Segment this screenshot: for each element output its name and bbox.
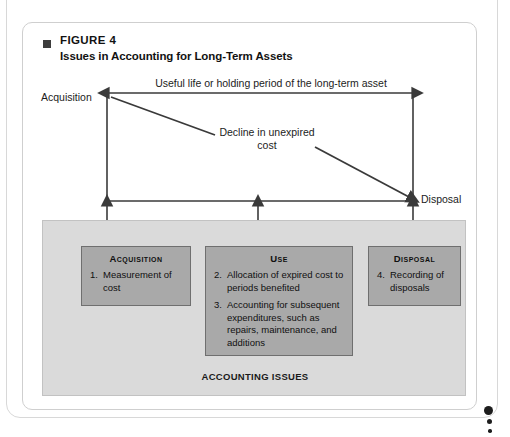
list-item: 2. Allocation of expired cost to periods… bbox=[214, 269, 346, 294]
timeline-diagram: Acquisition Disposal Useful life or hold… bbox=[23, 23, 478, 223]
issue-box-acquisition: Acquisition 1. Measurement of cost bbox=[81, 246, 191, 306]
list-item-text: Accounting for subsequent expenditures, … bbox=[227, 299, 340, 348]
issue-list-disposal: 4. Recording of disposals bbox=[369, 269, 460, 294]
useful-life-label: Useful life or holding period of the lon… bbox=[131, 77, 411, 89]
issue-box-use: Use 2. Allocation of expired cost to per… bbox=[205, 246, 353, 356]
issue-box-use-title: Use bbox=[206, 253, 352, 264]
issue-box-acquisition-title: Acquisition bbox=[82, 253, 190, 264]
list-item-text: Recording of disposals bbox=[390, 269, 444, 293]
decline-diagonal-arrow bbox=[315, 147, 409, 197]
issue-list-use: 2. Allocation of expired cost to periods… bbox=[206, 269, 352, 349]
decline-in-unexpired-cost-label: Decline in unexpired cost bbox=[219, 126, 315, 152]
list-item-text: Measurement of cost bbox=[103, 269, 172, 293]
margin-dot-medium bbox=[487, 419, 492, 424]
accounting-issues-panel: Acquisition 1. Measurement of cost Use 2… bbox=[42, 220, 466, 396]
list-item-text: Allocation of expired cost to periods be… bbox=[227, 269, 343, 293]
list-item: 4. Recording of disposals bbox=[377, 269, 454, 294]
list-item-number: 4. bbox=[377, 269, 385, 282]
list-item: 1. Measurement of cost bbox=[90, 269, 184, 294]
list-item-number: 2. bbox=[214, 269, 222, 282]
list-item-number: 1. bbox=[90, 269, 98, 282]
list-item: 3. Accounting for subsequent expenditure… bbox=[214, 299, 346, 349]
issue-box-disposal: Disposal 4. Recording of disposals bbox=[368, 246, 461, 306]
disposal-endpoint-label: Disposal bbox=[421, 193, 461, 205]
acquisition-endpoint-label: Acquisition bbox=[41, 91, 92, 103]
timeline-svg bbox=[23, 23, 478, 223]
list-item-number: 3. bbox=[214, 299, 222, 312]
margin-dot-small bbox=[488, 429, 492, 433]
figure-card: FIGURE 4 Issues in Accounting for Long-T… bbox=[22, 22, 477, 410]
accounting-issues-panel-title: ACCOUNTING ISSUES bbox=[43, 371, 467, 382]
decline-diagonal-left bbox=[111, 97, 215, 135]
margin-dot-large bbox=[484, 406, 493, 415]
issue-box-disposal-title: Disposal bbox=[369, 253, 460, 264]
issue-list-acquisition: 1. Measurement of cost bbox=[82, 269, 190, 294]
